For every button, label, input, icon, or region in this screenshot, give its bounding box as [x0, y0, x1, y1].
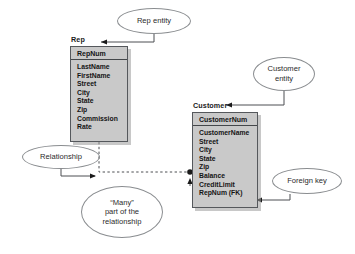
callout-label: “Many” part of the relationship: [103, 198, 142, 227]
attribute: Zip: [199, 163, 257, 172]
callout-label: Relationship: [40, 152, 82, 162]
attribute: Balance: [199, 172, 257, 181]
callout-relationship: Relationship: [22, 145, 100, 169]
attribute: FirstName: [77, 72, 127, 81]
relationship-line: [99, 142, 190, 172]
callout-oval: Relationship: [22, 145, 100, 169]
arrowhead-relationship: [90, 173, 96, 178]
entity-rep-primary-key: RepNum: [71, 47, 127, 60]
attribute: City: [199, 146, 257, 155]
entity-customer-title: Customer: [193, 101, 227, 110]
attribute: Street: [199, 138, 257, 147]
callout-foreign-key: Foreign key: [272, 168, 342, 194]
attribute: Street: [77, 80, 127, 89]
entity-customer-box: Customer CustomerNum CustomerName Street…: [192, 112, 258, 208]
entity-customer-attributes: CustomerName Street City State Zip Balan…: [193, 126, 257, 201]
er-diagram-canvas: Rep RepNum LastName FirstName Street Cit…: [0, 0, 355, 254]
callout-rep-entity: Rep entity: [117, 8, 191, 34]
callout-oval: Customer entity: [253, 57, 315, 91]
entity-customer-primary-key: CustomerNum: [193, 113, 257, 126]
attribute: LastName: [77, 63, 127, 72]
attribute: City: [77, 89, 127, 98]
callout-many-part: “Many” part of the relationship: [81, 186, 163, 238]
attribute: CreditLimit: [199, 181, 257, 190]
attribute: CustomerName: [199, 129, 257, 138]
attribute: Commission: [77, 115, 127, 124]
callout-label: Rep entity: [137, 16, 171, 26]
callout-customer-entity: Customer entity: [253, 57, 315, 91]
attribute: Rate: [77, 123, 127, 132]
attribute: Zip: [77, 106, 127, 115]
callout-oval: Foreign key: [272, 168, 342, 194]
attribute-foreign-key: RepNum (FK): [199, 189, 257, 198]
callout-label: Foreign key: [287, 176, 327, 186]
entity-rep-title: Rep: [71, 35, 85, 44]
connector-lines: [0, 0, 355, 254]
entity-rep-attributes: LastName FirstName Street City State Zip…: [71, 60, 127, 135]
entity-rep[interactable]: Rep RepNum LastName FirstName Street Cit…: [70, 46, 128, 142]
callout-oval: “Many” part of the relationship: [81, 186, 163, 238]
callout-oval: Rep entity: [117, 8, 191, 34]
entity-rep-box: Rep RepNum LastName FirstName Street Cit…: [70, 46, 128, 142]
attribute: State: [77, 97, 127, 106]
leader-relationship: [61, 169, 95, 176]
leader-rep-entity: [101, 34, 154, 42]
leader-customer-entity: [226, 91, 284, 105]
arrowhead-rep-entity: [101, 39, 107, 44]
attribute: State: [199, 155, 257, 164]
entity-customer[interactable]: Customer CustomerNum CustomerName Street…: [192, 112, 258, 208]
callout-label: Customer entity: [268, 64, 301, 83]
